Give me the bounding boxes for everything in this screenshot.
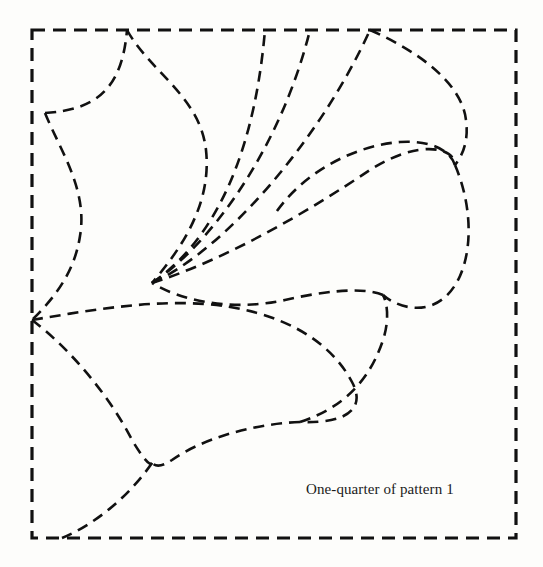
curve-right-upper-teardrop-lower: [275, 142, 455, 214]
figure-caption: One-quarter of pattern 1: [306, 481, 454, 498]
pattern-figure: One-quarter of pattern 1: [0, 0, 543, 567]
curve-mid-right-petal-top: [152, 149, 455, 283]
curve-bottom-left-lobe: [32, 320, 152, 464]
dashed-square-border: [32, 30, 516, 538]
curve-mid-right-petal-close: [152, 283, 383, 305]
curve-lower-right-petal: [300, 295, 387, 422]
curve-left-lobe-inner: [32, 113, 81, 320]
border-rect: [32, 30, 516, 538]
curve-center-fan-strand-a: [152, 30, 265, 283]
curve-center-fan-strand-b: [152, 30, 310, 283]
curve-upper-left-teardrop: [45, 30, 127, 113]
curve-lower-center-petal-top: [32, 303, 357, 422]
pattern-drawing: [0, 0, 543, 567]
dashed-curve-group: [32, 30, 469, 538]
curve-bottom-left-lobe-close: [62, 463, 152, 538]
curve-mid-right-petal-bottom: [383, 165, 469, 308]
curve-lower-center-petal-bottom: [152, 422, 300, 466]
